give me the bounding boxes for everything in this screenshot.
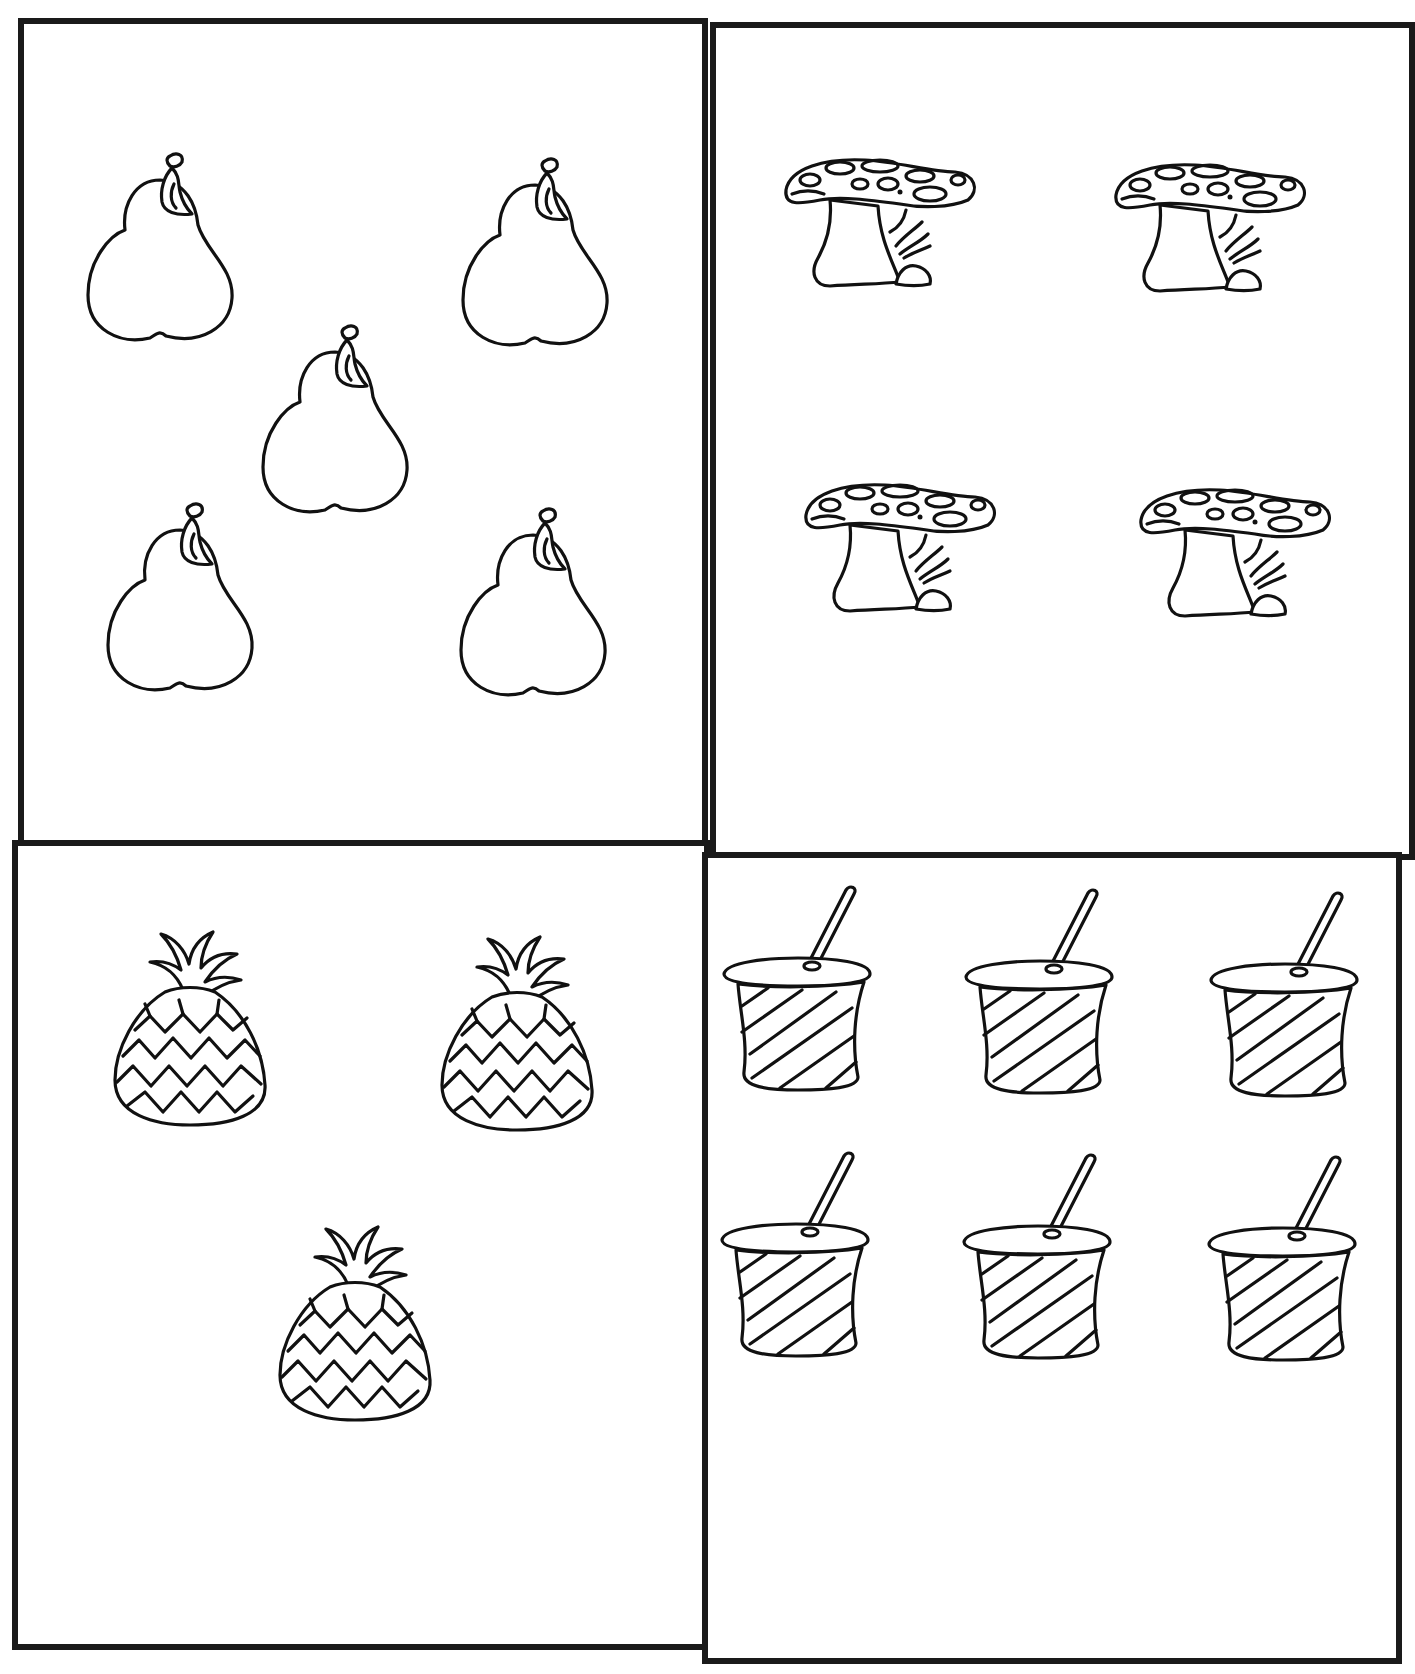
pineapple-icon [270,1215,440,1430]
mushroom-icon [1110,155,1310,300]
cup-with-straw-icon [958,1150,1118,1370]
cup-with-straw-item [1205,888,1365,1108]
quadrant-mushrooms [710,22,1415,860]
cup-with-straw-icon [1205,888,1365,1108]
mushroom-item [780,150,980,295]
pineapple-icon [105,920,275,1135]
pear-item [455,155,615,355]
pear-icon [80,150,240,350]
counting-worksheet [0,0,1415,1674]
mushroom-icon [780,150,980,295]
pear-icon [100,500,260,700]
pear-item [80,150,240,350]
pear-icon [455,155,615,355]
pear-icon [255,322,415,522]
pineapple-icon [432,925,602,1140]
pear-item [100,500,260,700]
pineapple-item [270,1215,440,1430]
mushroom-item [800,475,1000,620]
mushroom-icon [800,475,1000,620]
cup-with-straw-icon [718,882,878,1102]
pear-icon [453,505,613,705]
mushroom-icon [1135,480,1335,625]
cup-with-straw-item [1203,1152,1363,1372]
cup-with-straw-icon [716,1148,876,1368]
pineapple-item [432,925,602,1140]
pineapple-item [105,920,275,1135]
cup-with-straw-icon [1203,1152,1363,1372]
cup-with-straw-item [960,885,1120,1105]
mushroom-item [1135,480,1335,625]
pear-item [255,322,415,522]
mushroom-item [1110,155,1310,300]
cup-with-straw-item [958,1150,1118,1370]
cup-with-straw-item [718,882,878,1102]
cup-with-straw-icon [960,885,1120,1105]
pear-item [453,505,613,705]
cup-with-straw-item [716,1148,876,1368]
